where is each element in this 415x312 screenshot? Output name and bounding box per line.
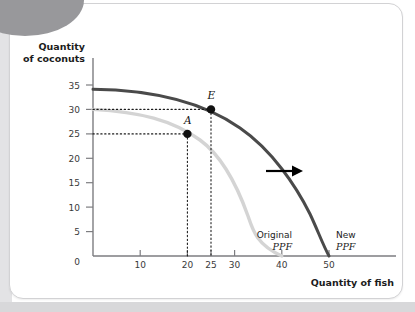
y-tick-label-30: 30	[69, 105, 81, 115]
y-axis-tick-labels: 35 30 25 20 15 10 5 0	[69, 81, 81, 267]
y-axis-title-line2: of coconuts	[23, 53, 85, 64]
point-label-e: E	[207, 89, 216, 101]
y-tick-label-20: 20	[69, 154, 81, 164]
axes	[93, 58, 396, 256]
curve-label-new-ppf: New PPF	[335, 230, 356, 252]
figure-page: 35 30 25 20 15 10 5 0 10 20	[0, 0, 415, 312]
y-tick-label-25: 25	[69, 129, 80, 139]
point-marker-a	[183, 130, 191, 138]
x-tick-label-30: 30	[229, 260, 241, 270]
curve-label-original-line2: PPF	[272, 241, 293, 252]
x-axis-title: Quantity of fish	[311, 277, 395, 288]
ppf-plot-svg: 35 30 25 20 15 10 5 0 10 20	[0, 0, 415, 312]
x-tick-label-20: 20	[182, 260, 194, 270]
curve-label-new-line1: New	[336, 230, 356, 240]
guide-lines-point-e	[93, 109, 211, 256]
ppf-chart: 35 30 25 20 15 10 5 0 10 20	[0, 0, 415, 312]
point-label-a: A	[183, 114, 192, 126]
x-tick-label-40: 40	[276, 260, 288, 270]
x-axis-tick-labels: 10 20 25 30 40 50	[134, 260, 335, 270]
x-tick-label-25: 25	[205, 260, 216, 270]
y-axis-title: Quantity of coconuts	[23, 41, 86, 64]
data-point-a: A	[183, 114, 192, 139]
y-tick-label-5: 5	[74, 227, 80, 237]
y-tick-label-35: 35	[69, 81, 80, 91]
y-tick-label-10: 10	[69, 203, 81, 213]
x-tick-label-10: 10	[134, 260, 146, 270]
y-tick-label-0: 0	[74, 257, 80, 267]
y-axis-title-line1: Quantity	[38, 41, 85, 52]
curve-label-original-line1: Original	[257, 230, 292, 240]
curve-label-new-line2: PPF	[335, 241, 356, 252]
point-marker-e	[207, 105, 215, 113]
y-axis-ticks	[86, 85, 93, 232]
data-point-e: E	[207, 89, 216, 114]
x-tick-label-50: 50	[323, 260, 335, 270]
x-axis-ticks	[140, 250, 329, 256]
y-tick-label-15: 15	[69, 178, 80, 188]
guide-lines-point-a	[93, 134, 187, 256]
